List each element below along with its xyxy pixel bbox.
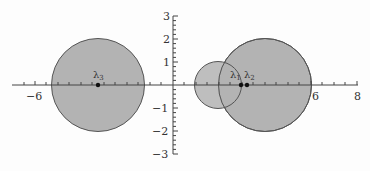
- gershgorin-disc-chart: −6 6 8 3 2 1 −1 −2 −3 λ3 λ1 λ2: [0, 0, 370, 171]
- y-tick-label-m2: −2: [152, 125, 168, 138]
- y-tick-label-1: 1: [163, 56, 170, 69]
- point-lambda1: [239, 83, 243, 87]
- y-tick-label-m3: −3: [152, 148, 168, 161]
- y-tick-label-2: 2: [163, 33, 170, 46]
- x-tick-label-8: 8: [354, 90, 361, 103]
- x-tick-label-neg6: −6: [26, 90, 42, 103]
- y-tick-label-3: 3: [163, 10, 170, 23]
- point-lambda3: [96, 83, 100, 87]
- y-tick-label-m1: −1: [152, 102, 168, 115]
- x-tick-label-6: 6: [312, 90, 319, 103]
- chart-canvas: −6 6 8 3 2 1 −1 −2 −3 λ3 λ1 λ2: [0, 0, 370, 171]
- point-lambda2: [245, 83, 249, 87]
